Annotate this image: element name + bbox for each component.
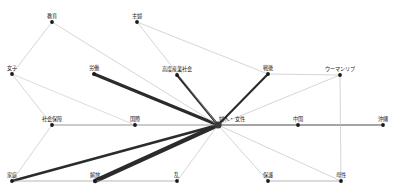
graph-node[interactable] bbox=[266, 179, 270, 183]
graph-edge bbox=[12, 22, 52, 74]
graph-node[interactable] bbox=[10, 72, 14, 76]
graph-node[interactable] bbox=[50, 20, 54, 24]
graph-edge bbox=[94, 74, 218, 125]
graph-edge bbox=[137, 22, 268, 74]
graph-node[interactable] bbox=[339, 179, 343, 183]
graph-edge bbox=[218, 75, 340, 125]
graph-node[interactable] bbox=[92, 72, 96, 76]
graph-node-hub[interactable] bbox=[214, 121, 221, 128]
graph-edge bbox=[218, 74, 268, 125]
graph-node[interactable] bbox=[50, 123, 54, 127]
graph-node[interactable] bbox=[296, 123, 300, 127]
network-graph-canvas bbox=[0, 0, 400, 196]
graph-edge bbox=[340, 75, 341, 181]
graph-edge bbox=[52, 22, 218, 125]
graph-edge bbox=[218, 125, 341, 181]
graph-node[interactable] bbox=[175, 179, 179, 183]
network-diagram: 教育主婦女子労働高度産業社会戦後ウーマンリブ社会保障国際婦人・女性中国沖縄家庭解… bbox=[0, 0, 400, 196]
graph-node[interactable] bbox=[133, 123, 137, 127]
graph-node[interactable] bbox=[135, 20, 139, 24]
graph-node[interactable] bbox=[175, 73, 179, 77]
graph-edge bbox=[12, 74, 52, 125]
graph-edge bbox=[12, 74, 135, 125]
graph-node[interactable] bbox=[266, 72, 270, 76]
graph-node[interactable] bbox=[93, 179, 97, 183]
graph-node[interactable] bbox=[381, 123, 385, 127]
graph-edge bbox=[268, 74, 340, 75]
graph-edge bbox=[218, 125, 268, 181]
graph-node[interactable] bbox=[10, 179, 14, 183]
graph-node[interactable] bbox=[338, 73, 342, 77]
edge-layer bbox=[12, 22, 383, 181]
